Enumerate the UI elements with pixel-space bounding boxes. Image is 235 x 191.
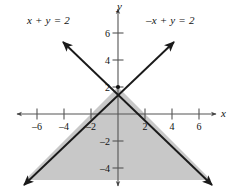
x-axis-label: x bbox=[221, 107, 226, 119]
equation-label-left-line: x + y = 2 bbox=[27, 14, 70, 26]
y-tick-label: 2 bbox=[100, 82, 110, 93]
x-tick-label: 2 bbox=[143, 121, 148, 132]
x-tick-label: 6 bbox=[197, 121, 202, 132]
y-tick-label: 4 bbox=[100, 55, 110, 66]
x-tick-label: –6 bbox=[32, 121, 42, 132]
x-tick-label: –2 bbox=[86, 121, 96, 132]
equation-label-right-line: –x + y = 2 bbox=[146, 14, 195, 26]
coordinate-plane bbox=[0, 0, 235, 191]
x-tick-label: 4 bbox=[170, 121, 175, 132]
graph-figure: x + y = 2 –x + y = 2 y x –6 –4 –2 2 4 6 … bbox=[0, 0, 235, 191]
y-axis-label: y bbox=[117, 0, 122, 12]
y-tick-label: –4 bbox=[96, 163, 110, 174]
y-tick-label: 6 bbox=[100, 28, 110, 39]
intersection-point bbox=[116, 85, 120, 89]
y-tick-label: –2 bbox=[96, 136, 110, 147]
x-tick-label: –4 bbox=[59, 121, 69, 132]
